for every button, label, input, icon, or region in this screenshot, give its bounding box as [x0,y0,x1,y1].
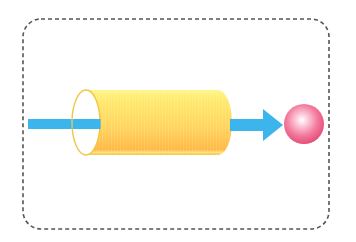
diagram-canvas [0,0,356,242]
tube-cylinder [72,90,232,155]
particle-sphere [284,104,324,144]
output-arrow [230,109,283,141]
